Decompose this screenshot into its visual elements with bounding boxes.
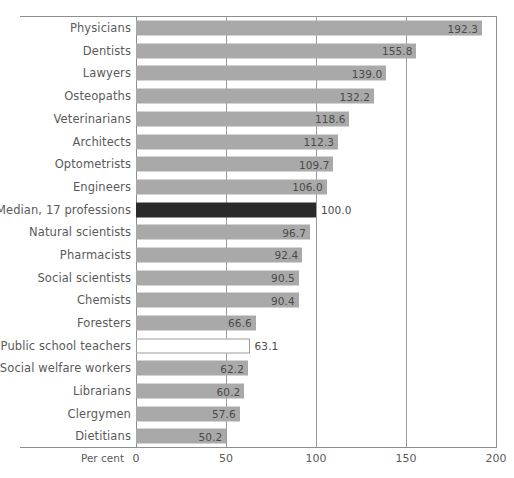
x-axis-caption: Per cent <box>81 452 124 464</box>
bar-category-label: Dentists <box>83 44 131 58</box>
bar-track: 66.6 <box>136 315 256 330</box>
bar <box>136 43 416 58</box>
bar-category-label: Clergymen <box>68 407 131 421</box>
bar-category-label: Natural scientists <box>29 225 131 239</box>
bar-track: 62.2 <box>136 361 248 376</box>
bar-category-label: Social welfare workers <box>0 361 131 375</box>
bar-value-label: 96.7 <box>282 226 306 238</box>
bar-row: Optometrists109.7 <box>0 152 514 176</box>
bar-track: 100.0 <box>136 202 316 217</box>
bar-value-label: 90.4 <box>271 294 295 306</box>
bar-category-label: Pharmacists <box>60 248 131 262</box>
bar-track: 90.4 <box>136 293 299 308</box>
bar-category-label: Median, 17 professions <box>0 203 131 217</box>
bar-value-label: 63.1 <box>255 340 279 352</box>
bar-category-label: Osteopaths <box>64 89 131 103</box>
x-tick-label-150: 150 <box>396 452 417 465</box>
bar-row: Architects112.3 <box>0 129 514 153</box>
bar <box>136 89 374 104</box>
bar-track: 192.3 <box>136 21 482 36</box>
bar-track: 60.2 <box>136 384 244 399</box>
bar-track: 96.7 <box>136 225 310 240</box>
bar-category-label: Architects <box>72 135 131 149</box>
bar-value-label: 90.5 <box>271 272 295 284</box>
bar-track: 139.0 <box>136 66 386 81</box>
bar-value-label: 50.2 <box>199 430 223 442</box>
bar-row: Clergymen57.6 <box>0 402 514 426</box>
bar-value-label: 106.0 <box>292 181 323 193</box>
bar-value-label: 92.4 <box>275 249 299 261</box>
bar-track: 57.6 <box>136 406 240 421</box>
bar-value-label: 112.3 <box>304 136 335 148</box>
bar-row: Chemists90.4 <box>0 288 514 312</box>
bar-category-label: Veterinarians <box>54 112 131 126</box>
bar-category-label: Foresters <box>77 316 131 330</box>
bar-track: 118.6 <box>136 111 349 126</box>
bar-track: 155.8 <box>136 43 416 58</box>
bar-category-label: Public school teachers <box>1 339 131 353</box>
bar-row: Osteopaths132.2 <box>0 84 514 108</box>
bar-rows: Physicians192.3Dentists155.8Lawyers139.0… <box>0 16 514 447</box>
x-tick-label-200: 200 <box>486 452 507 465</box>
bar-track: 109.7 <box>136 157 333 172</box>
bar-value-label: 57.6 <box>212 408 236 420</box>
bar <box>136 338 250 353</box>
x-axis: Per cent 050100150200 <box>0 448 514 478</box>
bar-value-label: 60.2 <box>217 385 241 397</box>
bar-value-label: 139.0 <box>352 67 383 79</box>
horizontal-bar-chart: Physicians192.3Dentists155.8Lawyers139.0… <box>0 0 514 478</box>
bar-value-label: 100.0 <box>321 204 352 216</box>
bar-track: 92.4 <box>136 247 302 262</box>
bar-value-label: 62.2 <box>220 362 244 374</box>
bar-row: Dentists155.8 <box>0 39 514 63</box>
bar-row: Foresters66.6 <box>0 311 514 335</box>
bar-track: 63.1 <box>136 338 250 353</box>
bar-category-label: Chemists <box>77 293 131 307</box>
bar-category-label: Lawyers <box>83 66 131 80</box>
bar-value-label: 192.3 <box>448 22 479 34</box>
bar-track: 112.3 <box>136 134 338 149</box>
bar-value-label: 66.6 <box>228 317 252 329</box>
bar-track: 90.5 <box>136 270 299 285</box>
bar-value-label: 132.2 <box>339 90 370 102</box>
bar-row: Social scientists90.5 <box>0 266 514 290</box>
bar-row: Engineers106.0 <box>0 175 514 199</box>
x-tick-label-0: 0 <box>133 452 140 465</box>
bar-value-label: 155.8 <box>382 45 413 57</box>
bar-row: Social welfare workers62.2 <box>0 356 514 380</box>
bar-category-label: Dietitians <box>75 429 131 443</box>
bar-row: Librarians60.2 <box>0 379 514 403</box>
bar-row: Dietitians50.2 <box>0 424 514 448</box>
x-tick-label-100: 100 <box>306 452 327 465</box>
bar-category-label: Social scientists <box>37 271 131 285</box>
bar-track: 50.2 <box>136 429 226 444</box>
bar-row: Median, 17 professions100.0 <box>0 197 514 221</box>
bar-row: Physicians192.3 <box>0 16 514 40</box>
bar-value-label: 118.6 <box>315 113 346 125</box>
bar-track: 106.0 <box>136 179 327 194</box>
bar <box>136 202 316 217</box>
bar-row: Natural scientists96.7 <box>0 220 514 244</box>
bar-row: Pharmacists92.4 <box>0 243 514 267</box>
bar-category-label: Librarians <box>73 384 131 398</box>
bar-category-label: Engineers <box>73 180 131 194</box>
bar <box>136 21 482 36</box>
bar-category-label: Physicians <box>70 21 131 35</box>
bar-row: Lawyers139.0 <box>0 61 514 85</box>
bar-row: Public school teachers63.1 <box>0 334 514 358</box>
bar-value-label: 109.7 <box>299 158 330 170</box>
x-tick-label-50: 50 <box>219 452 233 465</box>
bar-track: 132.2 <box>136 89 374 104</box>
bar <box>136 66 386 81</box>
bar-row: Veterinarians118.6 <box>0 107 514 131</box>
bar-category-label: Optometrists <box>55 157 131 171</box>
